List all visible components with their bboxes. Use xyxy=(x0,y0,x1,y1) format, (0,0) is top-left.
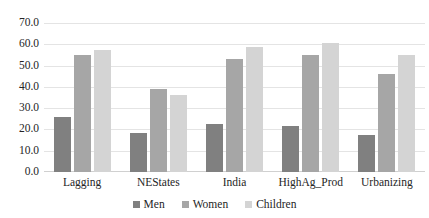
legend-label: Women xyxy=(193,198,228,210)
bar-women-highag_prod[interactable] xyxy=(302,55,319,172)
legend-swatch-icon xyxy=(182,201,189,208)
bar-men-nestates[interactable] xyxy=(130,133,147,172)
y-axis-tick-label: 70.0 xyxy=(19,17,39,29)
x-axis-tick-label: Lagging xyxy=(44,174,120,192)
y-axis-tick-label: 30.0 xyxy=(19,102,39,114)
bars-layer xyxy=(44,23,425,172)
bar-children-nestates[interactable] xyxy=(170,95,187,172)
bar-women-urbanizing[interactable] xyxy=(378,74,395,172)
bar-women-india[interactable] xyxy=(226,59,243,172)
legend-label: Men xyxy=(144,198,165,210)
bar-group xyxy=(349,23,425,172)
legend-item-children[interactable]: Children xyxy=(245,198,296,210)
legend-swatch-icon xyxy=(245,201,252,208)
y-axis-tick-label: 10.0 xyxy=(19,145,39,157)
y-axis-tick-label: 40.0 xyxy=(19,81,39,93)
plot-area xyxy=(44,23,425,172)
bar-group xyxy=(273,23,349,172)
x-axis-tick-label: NEStates xyxy=(120,174,196,192)
bar-women-lagging[interactable] xyxy=(74,55,91,172)
y-axis-tick-label: 50.0 xyxy=(19,60,39,72)
x-axis-tick-label: Urbanizing xyxy=(349,174,425,192)
legend-swatch-icon xyxy=(133,201,140,208)
bar-women-nestates[interactable] xyxy=(150,89,167,172)
bar-group xyxy=(120,23,196,172)
legend-item-men[interactable]: Men xyxy=(133,198,165,210)
x-axis-tick-label: HighAg_Prod xyxy=(273,174,349,192)
y-axis-tick-label: 60.0 xyxy=(19,39,39,51)
bar-men-lagging[interactable] xyxy=(54,117,71,172)
bar-children-highag_prod[interactable] xyxy=(322,43,339,172)
y-axis-tick-label: 20.0 xyxy=(19,124,39,136)
legend-item-women[interactable]: Women xyxy=(182,198,228,210)
bar-children-india[interactable] xyxy=(246,47,263,172)
bar-group xyxy=(44,23,120,172)
y-axis-tick-label: 0.0 xyxy=(25,166,39,178)
bar-group xyxy=(196,23,272,172)
y-axis: 0.010.020.030.040.050.060.070.0 xyxy=(0,0,44,218)
x-axis-tick-label: India xyxy=(196,174,272,192)
chart-legend: MenWomenChildren xyxy=(0,194,429,214)
legend-label: Children xyxy=(256,198,296,210)
bar-men-urbanizing[interactable] xyxy=(358,135,375,172)
bar-men-india[interactable] xyxy=(206,124,223,172)
bar-chart: 0.010.020.030.040.050.060.070.0 LaggingN… xyxy=(0,0,429,218)
bar-children-lagging[interactable] xyxy=(94,50,111,172)
x-axis: LaggingNEStatesIndiaHighAg_ProdUrbanizin… xyxy=(44,174,425,192)
bar-children-urbanizing[interactable] xyxy=(398,55,415,172)
bar-men-highag_prod[interactable] xyxy=(282,126,299,172)
